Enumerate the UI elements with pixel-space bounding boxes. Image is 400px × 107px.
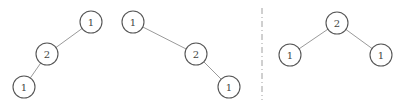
tree-node: 2 xyxy=(36,43,58,65)
tree-diagram: 121121211 xyxy=(0,0,400,107)
tree-node: 2 xyxy=(326,12,348,34)
tree-node: 1 xyxy=(370,44,392,66)
node-label: 1 xyxy=(287,50,293,61)
tree-node: 1 xyxy=(13,76,35,98)
tree-node: 1 xyxy=(122,11,144,33)
tree-node: 1 xyxy=(218,76,240,98)
node-label: 2 xyxy=(193,49,199,60)
node-label: 1 xyxy=(130,17,136,28)
node-label: 1 xyxy=(21,82,27,93)
node-label: 1 xyxy=(88,17,94,28)
tree-node: 2 xyxy=(185,43,207,65)
tree-node: 1 xyxy=(279,44,301,66)
node-label: 2 xyxy=(334,18,340,29)
nodes-layer: 121121211 xyxy=(13,11,392,98)
node-label: 1 xyxy=(378,50,384,61)
node-label: 1 xyxy=(226,82,232,93)
tree-node: 1 xyxy=(80,11,102,33)
node-label: 2 xyxy=(44,49,50,60)
